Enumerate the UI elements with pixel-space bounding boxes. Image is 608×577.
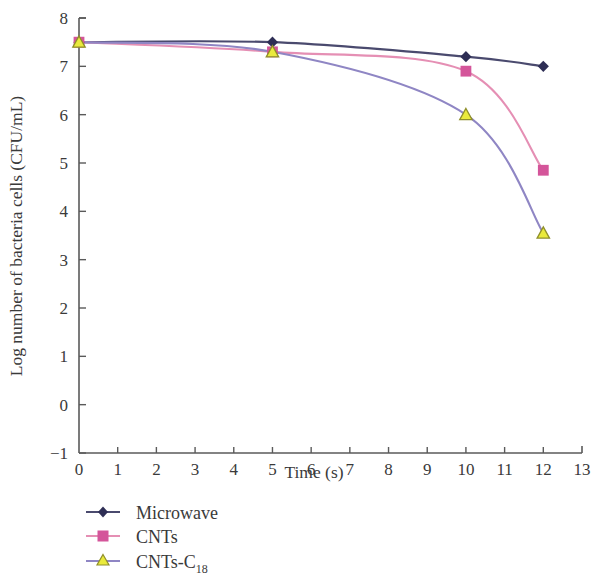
x-tick-label: 5 — [268, 460, 277, 479]
y-tick-label: −1 — [50, 444, 68, 463]
x-tick-label: 8 — [384, 460, 393, 479]
x-tick-label: 13 — [574, 460, 591, 479]
y-tick-label: 4 — [60, 202, 69, 221]
y-tick-label: 5 — [60, 154, 69, 173]
y-tick-label: 6 — [60, 106, 69, 125]
x-tick-label: 11 — [496, 460, 512, 479]
x-tick-label: 1 — [113, 460, 122, 479]
data-point-square — [538, 165, 549, 176]
y-tick-label: 3 — [60, 251, 69, 270]
x-tick-label: 0 — [75, 460, 84, 479]
line-chart: −1012345678 012345678910111213 Time (s) … — [0, 0, 608, 577]
chart-background — [0, 0, 608, 577]
square-icon — [98, 531, 109, 542]
legend-label-microwave: Microwave — [136, 503, 218, 523]
x-axis-title: Time (s) — [284, 462, 343, 482]
y-tick-label: 0 — [60, 396, 69, 415]
y-tick-label: 1 — [60, 347, 69, 366]
chart-figure: −1012345678 012345678910111213 Time (s) … — [0, 0, 608, 577]
x-tick-label: 10 — [457, 460, 474, 479]
y-axis-title: Log number of bacteria cells (CFU/mL) — [6, 96, 26, 377]
x-tick-label: 12 — [535, 460, 552, 479]
x-tick-label: 2 — [152, 460, 161, 479]
x-tick-label: 3 — [191, 460, 200, 479]
legend-label-cnts: CNTs — [136, 527, 178, 547]
x-tick-label: 4 — [230, 460, 239, 479]
data-point-square — [461, 66, 472, 77]
x-tick-label: 9 — [423, 460, 432, 479]
y-tick-label: 7 — [60, 57, 69, 76]
y-tick-label: 8 — [60, 9, 69, 28]
x-tick-label: 7 — [346, 460, 355, 479]
y-tick-label: 2 — [60, 299, 69, 318]
